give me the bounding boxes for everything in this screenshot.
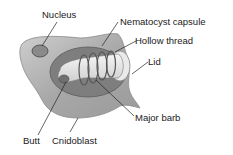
butt <box>59 75 69 83</box>
label-lid: Lid <box>148 57 161 67</box>
label-major-barb: Major barb <box>135 113 180 123</box>
label-butt: Butt <box>23 136 40 146</box>
label-nucleus: Nucleus <box>42 10 76 20</box>
label-hollow-thread: Hollow thread <box>135 36 193 46</box>
label-cnidoblast: Cnidoblast <box>52 136 97 146</box>
nucleus <box>32 45 48 57</box>
label-nematocyst-capsule: Nematocyst capsule <box>120 17 206 27</box>
